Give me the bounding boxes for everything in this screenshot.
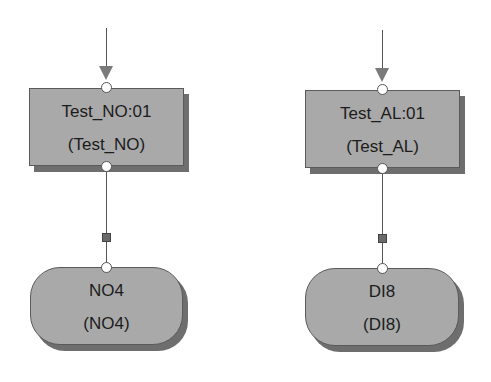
edge-line bbox=[382, 174, 383, 266]
edge-line bbox=[106, 28, 107, 68]
junction-square-icon[interactable] bbox=[378, 234, 387, 243]
step-box[interactable]: Test_AL:01 (Test_AL) bbox=[305, 90, 460, 168]
step-type: (Test_NO) bbox=[68, 135, 145, 155]
edge-line bbox=[382, 30, 383, 70]
step-name: Test_AL:01 bbox=[340, 104, 425, 124]
input-port[interactable] bbox=[377, 84, 388, 95]
junction-square-icon[interactable] bbox=[102, 233, 111, 242]
arrowhead-icon bbox=[99, 66, 113, 80]
io-box[interactable]: DI8 (DI8) bbox=[305, 268, 459, 346]
step-name: Test_NO:01 bbox=[62, 102, 152, 122]
input-port[interactable] bbox=[101, 262, 112, 273]
output-port[interactable] bbox=[101, 161, 112, 172]
input-port[interactable] bbox=[377, 263, 388, 274]
io-box[interactable]: NO4 (NO4) bbox=[30, 267, 183, 345]
input-port[interactable] bbox=[101, 82, 112, 93]
diagram-canvas: Test_NO:01 (Test_NO) NO4 (NO4) Test_AL:0… bbox=[0, 0, 491, 382]
io-name: NO4 bbox=[89, 281, 124, 301]
arrowhead-icon bbox=[375, 68, 389, 82]
io-type: (NO4) bbox=[83, 314, 129, 334]
io-name: DI8 bbox=[369, 282, 395, 302]
edge-line bbox=[106, 172, 107, 264]
step-box[interactable]: Test_NO:01 (Test_NO) bbox=[29, 88, 184, 166]
io-type: (DI8) bbox=[363, 315, 401, 335]
step-type: (Test_AL) bbox=[346, 137, 419, 157]
output-port[interactable] bbox=[377, 163, 388, 174]
